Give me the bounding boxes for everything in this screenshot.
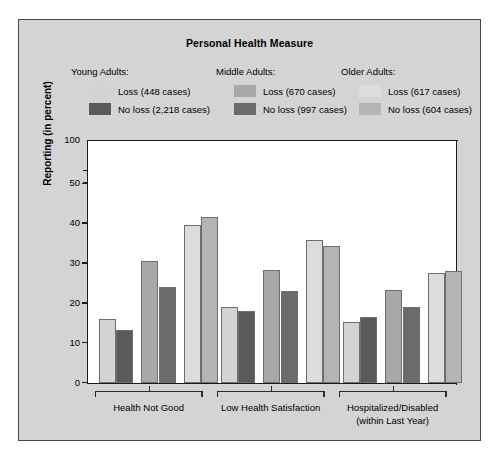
y-tick-label: 100 [64,134,80,146]
bar [445,271,462,383]
legend-swatch-young-noloss [89,103,111,115]
y-tick-100: 100 [55,134,87,146]
x-axis-categories: Health Not GoodLow Health SatisfactionHo… [89,386,457,442]
bar [221,307,238,383]
bar [281,291,298,383]
x-category-label: Hospitalized/Disabled(within Last Year) [339,402,447,427]
legend-item-label: No loss (604 cases) [388,104,472,115]
x-category-label: Health Not Good [95,402,203,415]
legend-swatch-older-loss [359,85,381,97]
chart-legend: Young Adults:Loss (448 cases)No loss (2,… [71,66,471,136]
bar [428,273,445,383]
y-tick-30: 30 [55,257,87,269]
y-tick-label: 20 [69,297,80,309]
x-category-bracket [217,386,325,397]
legend-group-heading: Middle Adults: [216,66,346,77]
legend-item: No loss (604 cases) [359,100,476,118]
legend-item-label: Loss (670 cases) [263,86,335,97]
legend-item-label: No loss (2,218 cases) [118,104,210,115]
bar [141,261,158,383]
bar [184,225,201,382]
bar [343,322,360,383]
y-axis-label: Reporting (in percent) [42,44,53,224]
legend-swatch-older-noloss [359,103,381,115]
legend-item-label: Loss (617 cases) [388,86,460,97]
x-category-2: Hospitalized/Disabled(within Last Year) [339,386,447,427]
legend-group-heading: Older Adults: [341,66,476,77]
bar-group-1 [211,141,333,383]
legend-item: Loss (448 cases) [89,82,211,100]
legend-group-2: Older Adults:Loss (617 cases)No loss (60… [341,66,476,118]
legend-swatch-young-loss [89,85,111,97]
bar [238,311,255,382]
legend-item: Loss (617 cases) [359,82,476,100]
bar [263,270,280,383]
legend-item: Loss (670 cases) [234,82,346,100]
chart-figure: Personal Health Measure Young Adults:Los… [18,19,481,441]
bars-layer [89,141,457,383]
bar [360,317,377,383]
legend-item: No loss (997 cases) [234,100,346,118]
bar [159,287,176,382]
y-tick-label: 50 [69,177,80,189]
legend-group-heading: Young Adults: [71,66,211,77]
bar [99,319,116,383]
bar [116,330,133,383]
y-tick-label: 40 [69,217,80,229]
y-tick-40: 40 [55,217,87,229]
x-category-label: Low Health Satisfaction [217,402,325,415]
bar [306,240,323,382]
y-tick-10: 10 [55,337,87,349]
bar [385,290,402,383]
legend-group-0: Young Adults:Loss (448 cases)No loss (2,… [71,66,211,118]
bar-group-0 [89,141,211,383]
x-category-1: Low Health Satisfaction [217,386,325,415]
x-category-bracket [95,386,203,397]
legend-item: No loss (2,218 cases) [89,100,211,118]
x-category-0: Health Not Good [95,386,203,415]
legend-item-label: No loss (997 cases) [263,104,347,115]
y-tick-label: 0 [75,377,80,389]
bar-group-2 [333,141,455,383]
legend-group-1: Middle Adults:Loss (670 cases)No loss (9… [216,66,346,118]
x-category-bracket [339,386,447,397]
y-tick-20: 20 [55,297,87,309]
y-tick-label: 30 [69,257,80,269]
legend-swatch-middle-noloss [234,103,256,115]
legend-item-label: Loss (448 cases) [118,86,190,97]
y-tick-label: 10 [69,337,80,349]
chart-title: Personal Health Measure [19,37,480,49]
bar [403,307,420,383]
legend-swatch-middle-loss [234,85,256,97]
y-tick-0: 0 [55,377,87,389]
